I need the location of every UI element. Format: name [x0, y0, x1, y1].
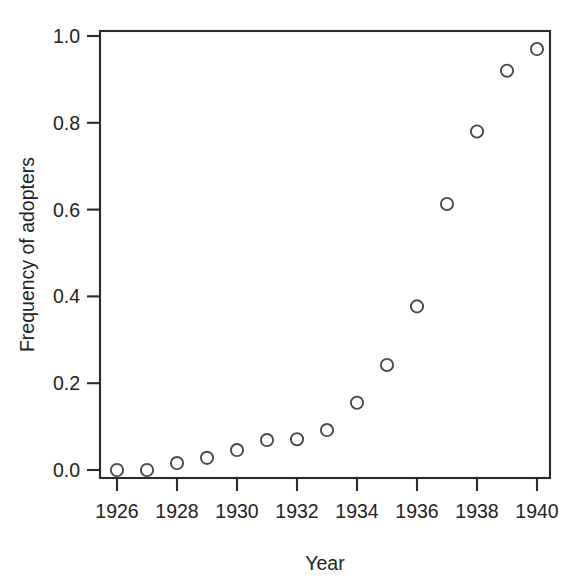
x-tick-label-1930: 1930	[215, 500, 259, 522]
plot-frame	[100, 31, 550, 478]
scatter-plot-figure: 0.00.20.40.60.81.01926192819301932193419…	[0, 0, 571, 585]
data-point	[411, 300, 423, 312]
data-point	[351, 397, 363, 409]
x-tick-label-1932: 1932	[275, 500, 318, 522]
x-tick-label-1928: 1928	[155, 500, 198, 522]
x-tick-label-1936: 1936	[395, 500, 438, 522]
x-tick-label-1938: 1938	[455, 500, 498, 522]
data-point	[141, 464, 153, 476]
x-axis-title: Year	[305, 552, 345, 574]
data-point	[471, 125, 483, 137]
y-tick-label-0.2: 0.2	[53, 372, 80, 394]
data-point	[171, 457, 183, 469]
x-tick-label-1926: 1926	[95, 500, 138, 522]
y-axis-title: Frequency of adopters	[16, 157, 38, 352]
y-tick-label-0.8: 0.8	[53, 112, 80, 134]
data-point	[531, 43, 543, 55]
x-tick-label-1940: 1940	[515, 500, 559, 522]
data-point	[501, 65, 513, 77]
data-point	[381, 359, 393, 371]
data-point	[441, 198, 453, 210]
data-point	[261, 434, 273, 446]
data-point	[201, 452, 213, 464]
y-tick-label-1.0: 1.0	[53, 25, 80, 47]
y-tick-label-0.4: 0.4	[53, 285, 80, 307]
y-tick-label-0.0: 0.0	[53, 459, 80, 481]
data-point	[321, 424, 333, 436]
plot-canvas: 0.00.20.40.60.81.01926192819301932193419…	[0, 0, 571, 585]
data-point	[291, 433, 303, 445]
x-tick-label-1934: 1934	[335, 500, 379, 522]
y-tick-label-0.6: 0.6	[53, 199, 80, 221]
data-point	[231, 444, 243, 456]
data-point	[111, 464, 123, 476]
